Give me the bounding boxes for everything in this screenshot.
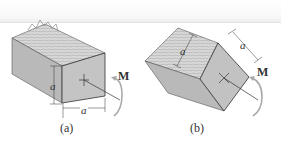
dim-label-right-b: a xyxy=(240,39,246,51)
dim-label-horizontal-a: a xyxy=(80,104,88,116)
caption-a: (a) xyxy=(60,121,73,136)
moment-label-b: M xyxy=(257,65,268,80)
beam-a xyxy=(12,20,122,118)
caption-b: (b) xyxy=(190,121,204,136)
beam-diagram xyxy=(0,0,281,144)
moment-label-a: M xyxy=(118,69,129,84)
dim-label-vertical-a: a xyxy=(50,80,56,92)
dim-label-left-b: a xyxy=(180,45,186,57)
